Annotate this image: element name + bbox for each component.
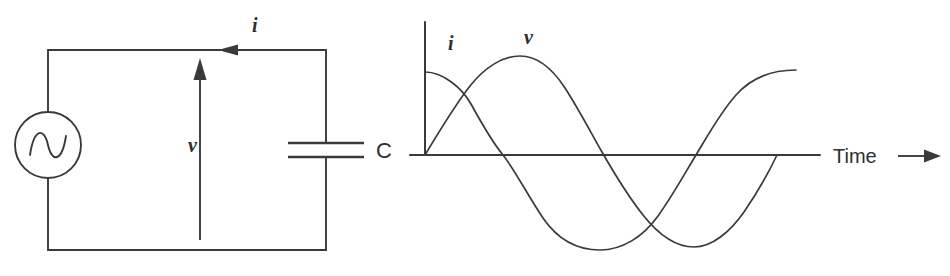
voltage-label: v <box>188 134 198 156</box>
current-curve-label: i <box>448 32 454 54</box>
circuit-group: C i v <box>15 14 392 250</box>
current-arrowhead-icon <box>218 45 238 56</box>
time-axis-label: Time <box>833 145 877 167</box>
capacitor-label: C <box>376 138 392 163</box>
voltage-curve-label: v <box>524 26 534 48</box>
time-arrowhead-icon <box>924 150 941 163</box>
voltage-arrowhead-icon <box>194 58 207 80</box>
current-label: i <box>252 14 258 36</box>
diagram-svg: C i v i v Time <box>0 0 950 276</box>
ac-source-sine-icon <box>30 133 66 157</box>
voltage-waveform-curve <box>425 56 777 247</box>
current-waveform-curve <box>425 70 796 250</box>
figure-canvas: C i v i v Time <box>0 0 950 276</box>
waveform-graph-group: i v Time <box>410 22 941 250</box>
